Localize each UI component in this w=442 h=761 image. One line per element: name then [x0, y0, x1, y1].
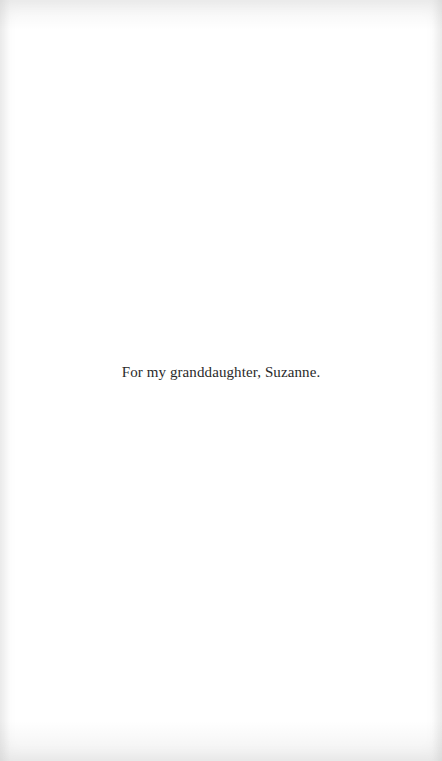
- page-edge-shadow-bottom: [0, 721, 442, 761]
- dedication-text: For my granddaughter, Suzanne.: [0, 363, 442, 381]
- page-edge-shadow-top: [0, 0, 442, 30]
- book-page: For my granddaughter, Suzanne.: [0, 0, 442, 761]
